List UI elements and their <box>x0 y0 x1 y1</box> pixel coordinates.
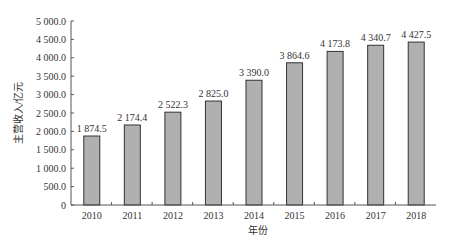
bar-value-label: 3 864.6 <box>280 50 310 61</box>
y-tick-label: 0 <box>61 200 66 211</box>
bars: 1 874.52 174.42 522.32 825.03 390.03 864… <box>77 29 431 205</box>
y-tick-label: 500.0 <box>44 181 67 192</box>
bar <box>124 125 140 205</box>
bar-value-label: 2 522.3 <box>158 99 188 110</box>
y-tick-label: 3 500.0 <box>36 71 66 82</box>
x-tick-label: 2015 <box>285 210 305 221</box>
y-tick-label: 4 000.0 <box>36 52 66 63</box>
bar <box>408 42 424 205</box>
x-tick-label: 2017 <box>366 210 386 221</box>
y-tick-label: 3 000.0 <box>36 89 66 100</box>
bar <box>246 80 262 205</box>
x-tick-label: 2010 <box>82 210 102 221</box>
x-tick-label: 2011 <box>123 210 143 221</box>
bar <box>205 101 221 205</box>
y-axis-label: 主营收入/亿元 <box>12 82 24 145</box>
bar-value-label: 2 825.0 <box>198 88 228 99</box>
x-tick-label: 2014 <box>244 210 264 221</box>
y-tick-label: 4 500.0 <box>36 34 66 45</box>
bar <box>165 112 181 205</box>
bar <box>327 51 343 205</box>
bar-chart: 0500.01 000.01 500.02 000.02 500.03 000.… <box>0 0 455 242</box>
x-tick-label: 2013 <box>203 210 223 221</box>
y-tick-label: 2 500.0 <box>36 108 66 119</box>
bar-value-label: 1 874.5 <box>77 123 107 134</box>
bar-value-label: 4 427.5 <box>401 29 431 40</box>
x-tick-label: 2012 <box>163 210 183 221</box>
bar <box>84 136 100 205</box>
y-tick-label: 2 000.0 <box>36 126 66 137</box>
bar-value-label: 4 173.8 <box>320 38 350 49</box>
x-axis-label: 年份 <box>248 224 268 236</box>
y-tick-label: 1 500.0 <box>36 144 66 155</box>
bar-value-label: 3 390.0 <box>239 67 269 78</box>
x-tick-label: 2016 <box>325 210 345 221</box>
x-tick-label: 2018 <box>406 210 426 221</box>
y-tick-label: 1 000.0 <box>36 163 66 174</box>
bar <box>368 45 384 205</box>
bar-value-label: 2 174.4 <box>117 112 147 123</box>
bar <box>287 63 303 205</box>
bar-value-label: 4 340.7 <box>361 32 391 43</box>
y-axis-ticks: 0500.01 000.01 500.02 000.02 500.03 000.… <box>36 16 74 211</box>
y-tick-label: 5 000.0 <box>36 16 66 27</box>
